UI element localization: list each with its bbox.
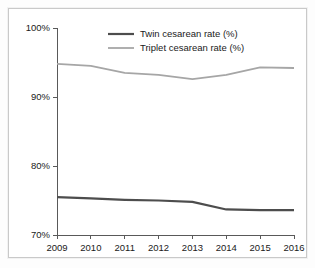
y-tick-label: 80% xyxy=(31,160,51,171)
chart-legend: Twin cesarean rate (%)Triplet cesarean r… xyxy=(108,28,244,53)
y-axis: 100%90%80%70% xyxy=(26,22,57,240)
x-tick-label: 2015 xyxy=(250,242,271,253)
chart-figure: 100%90%80%70% 20092010201120122013201420… xyxy=(0,0,315,268)
x-tick-label: 2009 xyxy=(46,242,67,253)
y-tick-label: 90% xyxy=(31,91,51,102)
x-tick-label: 2016 xyxy=(283,242,304,253)
legend-label-twin: Twin cesarean rate (%) xyxy=(140,28,238,39)
x-tick-label: 2013 xyxy=(182,242,203,253)
x-tick-label: 2010 xyxy=(80,242,101,253)
x-tick-label: 2012 xyxy=(148,242,169,253)
line-chart: 100%90%80%70% 20092010201120122013201420… xyxy=(0,0,315,268)
x-tick-label: 2014 xyxy=(216,242,237,253)
x-axis: 20092010201120122013201420152016 xyxy=(46,235,304,253)
y-tick-label: 100% xyxy=(26,22,51,33)
series-layer xyxy=(57,64,294,210)
series-line-twin xyxy=(57,197,294,210)
legend-label-triplet: Triplet cesarean rate (%) xyxy=(140,42,244,53)
x-tick-label: 2011 xyxy=(114,242,134,253)
y-tick-label: 70% xyxy=(31,229,51,240)
series-line-triplet xyxy=(57,64,294,79)
